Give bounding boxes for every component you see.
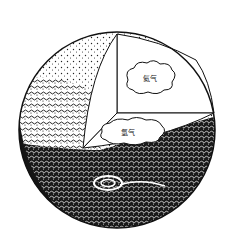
upper-cloud-label: 氦气 bbox=[143, 73, 157, 83]
lower-cloud-label: 氢气 bbox=[121, 127, 135, 137]
planet-cutaway-diagram bbox=[0, 0, 230, 235]
